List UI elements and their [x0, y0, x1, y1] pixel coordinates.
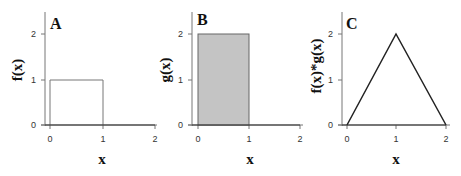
triangle-convolution — [347, 34, 446, 125]
x-tick-label: 0 — [47, 134, 52, 144]
y-axis-label: f(x)*g(x) — [308, 39, 325, 94]
y-tick-label: 0 — [328, 120, 333, 130]
y-tick-label: 2 — [31, 29, 36, 39]
x-tick-label: 1 — [246, 134, 251, 144]
box-function-f — [50, 80, 103, 125]
x-tick-label: 2 — [297, 134, 302, 144]
panel-b: 2 1 0 0 1 2 B g(x) x — [157, 11, 303, 167]
x-tick-label: 0 — [195, 134, 200, 144]
panel-letter: C — [346, 15, 358, 32]
y-axis-label: g(x) — [157, 58, 174, 83]
y-tick-label: 1 — [328, 75, 333, 85]
panel-c: 2 1 0 0 1 2 C f(x)*g(x) x — [308, 12, 450, 167]
box-function-g — [198, 34, 249, 125]
y-tick-label: 1 — [31, 75, 36, 85]
panel-letter: B — [197, 11, 208, 28]
y-tick-label: 0 — [178, 120, 183, 130]
x-tick-label: 1 — [393, 134, 398, 144]
y-tick-label: 0 — [31, 120, 36, 130]
x-tick-label: 0 — [344, 134, 349, 144]
y-axis-label: f(x) — [9, 59, 26, 82]
x-axis-label: x — [392, 151, 400, 167]
x-tick-label: 1 — [100, 134, 105, 144]
panel-a: 2 1 0 0 1 2 A f(x) x — [9, 12, 158, 167]
x-tick-label: 2 — [443, 134, 448, 144]
x-axis-label: x — [246, 151, 254, 167]
y-tick-label: 2 — [178, 29, 183, 39]
x-axis-label: x — [98, 151, 106, 167]
convolution-figure: 2 1 0 0 1 2 A f(x) x 2 1 0 0 1 2 B — [0, 0, 461, 176]
panel-letter: A — [50, 15, 62, 32]
x-tick-label: 2 — [152, 134, 157, 144]
y-tick-label: 1 — [178, 75, 183, 85]
y-tick-label: 2 — [328, 29, 333, 39]
